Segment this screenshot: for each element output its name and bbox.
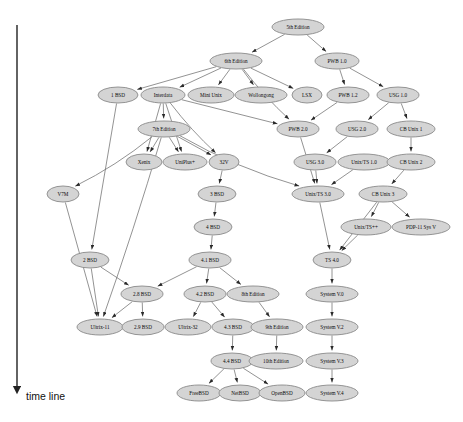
node-sysv0[interactable]: System V.0 [306, 286, 358, 302]
node-label: CB Unix 3 [372, 191, 395, 197]
node-label: 9th Edition [265, 324, 289, 330]
edge-7th-to-uniplus [169, 137, 178, 151]
node-label: TS 4.0 [325, 257, 339, 263]
node-usg10[interactable]: USG 1.0 [377, 87, 419, 103]
node-ts40[interactable]: TS 4.0 [313, 252, 351, 268]
node-cb1[interactable]: CB Unix 1 [387, 121, 435, 137]
edge-42bsd-to-43bsd [212, 302, 225, 317]
edge-usg10-to-usg20 [368, 103, 389, 120]
node-uts10[interactable]: Unix/TS 1.0 [338, 154, 390, 170]
edge-1bsd-to-2bsd [92, 103, 117, 249]
node-label: PDP-11 Sys V [406, 224, 436, 230]
node-sysv2[interactable]: System V.2 [306, 319, 358, 335]
node-pdp11sv[interactable]: PDP-11 Sys V [392, 219, 450, 235]
node-cb3[interactable]: CB Unix 3 [359, 186, 407, 202]
node-label: USG 3.0 [306, 159, 325, 165]
timeline-label: time line [26, 390, 65, 402]
node-43bsd[interactable]: 4.3 BSD [212, 319, 254, 335]
node-usg30[interactable]: USG 3.0 [294, 154, 336, 170]
edge-cb2-to-cb3 [392, 170, 404, 184]
node-label: USG 1.0 [389, 92, 408, 98]
node-utspp[interactable]: Unix/TS++ [341, 219, 391, 235]
node-label: 1 BSD [111, 92, 125, 98]
node-sysv3[interactable]: System V.3 [306, 353, 358, 369]
node-3bsd[interactable]: 3 BSD [198, 186, 236, 202]
node-label: Ultrix-11 [90, 324, 110, 330]
node-label: Wollongong [248, 92, 274, 98]
node-32v[interactable]: 32V [209, 154, 239, 170]
edge-usg20-to-usg30 [327, 137, 348, 153]
node-label: 7th Edition [152, 126, 176, 132]
node-label: Unix/TS++ [354, 224, 378, 230]
node-label: NetBSD [231, 390, 249, 396]
node-uniplus[interactable]: UniPlus+ [163, 154, 207, 170]
edge-4bsd-to-41bsd [211, 235, 212, 249]
node-lsx[interactable]: LSX [292, 87, 322, 103]
edge-usg30-to-uts30 [316, 170, 317, 183]
node-label: 8th Edition [241, 291, 265, 297]
edge-44bsd-to-openbsd [243, 368, 268, 384]
node-uts30[interactable]: Unix/TS 3.0 [292, 186, 344, 202]
node-sysv4[interactable]: System V.4 [306, 385, 358, 401]
node-ultrix11[interactable]: Ultrix-11 [77, 319, 123, 335]
edge-44bsd-to-freebsd [209, 369, 224, 383]
node-label: System V.0 [320, 291, 344, 297]
node-interdata[interactable]: Interdata [141, 87, 185, 103]
node-6th[interactable]: 6th Edition [210, 53, 262, 69]
node-label: Interdata [154, 92, 173, 98]
node-2bsd[interactable]: 2 BSD [71, 252, 109, 268]
node-layer: 5th Edition6th EditionPWB 1.01 BSDInterd… [47, 19, 450, 401]
edge-5th-to-6th [252, 34, 285, 52]
node-4bsd[interactable]: 4 BSD [194, 219, 232, 235]
node-label: CB Unix 1 [400, 126, 423, 132]
node-pwb10[interactable]: PWB 1.0 [315, 53, 359, 69]
node-8th[interactable]: 8th Edition [227, 286, 279, 302]
node-42bsd[interactable]: 4.2 BSD [184, 286, 226, 302]
edge-usg10-to-cb1 [401, 103, 407, 118]
diagram-canvas: 5th Edition6th EditionPWB 1.01 BSDInterd… [0, 0, 463, 422]
node-openbsd[interactable]: OpenBSD [259, 385, 305, 401]
node-label: UniPlus+ [175, 159, 195, 165]
node-cb2[interactable]: CB Unix 2 [387, 154, 435, 170]
node-44bsd[interactable]: 4.4 BSD [211, 353, 253, 369]
node-label: Unix/TS 1.0 [351, 159, 377, 165]
node-v7m[interactable]: V7M [47, 186, 79, 202]
node-pwb20[interactable]: PWB 2.0 [277, 121, 319, 137]
node-label: Unix/TS 3.0 [305, 191, 331, 197]
node-41bsd[interactable]: 4.1 BSD [189, 252, 231, 268]
node-label: Ultrix-32 [178, 324, 198, 330]
node-9th[interactable]: 9th Edition [251, 319, 303, 335]
node-29bsd[interactable]: 2.9 BSD [122, 319, 164, 335]
node-usg20[interactable]: USG 2.0 [336, 121, 378, 137]
node-label: System V.4 [320, 390, 344, 396]
node-wollong[interactable]: Wollongong [235, 87, 287, 103]
edge-pwb12-to-pwb20 [311, 102, 337, 120]
node-label: 2.8 BSD [133, 291, 151, 297]
node-label: 2.9 BSD [134, 324, 152, 330]
node-label: 4.3 BSD [224, 324, 242, 330]
node-label: 4.2 BSD [196, 291, 214, 297]
node-xenix[interactable]: Xenix [126, 154, 162, 170]
edge-6th-to-interdata [180, 68, 221, 87]
edge-2bsd-to-28bsd [101, 267, 129, 285]
edge-pwb10-to-pwb12 [340, 69, 345, 84]
edge-5th-to-pwb10 [307, 35, 326, 52]
node-7th[interactable]: 7th Edition [138, 121, 190, 137]
node-1bsd[interactable]: 1 BSD [98, 87, 138, 103]
edge-28bsd-to-ultrix11 [112, 302, 132, 318]
node-10th[interactable]: 10th Edition [249, 353, 303, 369]
node-netbsd[interactable]: NetBSD [219, 385, 261, 401]
node-label: CB Unix 2 [400, 159, 423, 165]
unix-history-diagram: 5th Edition6th EditionPWB 1.01 BSDInterd… [0, 0, 463, 422]
node-minix[interactable]: Mini Unix [188, 87, 234, 103]
edge-42bsd-to-ultrix32 [193, 302, 200, 316]
edge-6th-to-minix [218, 69, 229, 85]
edge-uts10-to-uts30 [331, 170, 352, 185]
node-28bsd[interactable]: 2.8 BSD [121, 286, 163, 302]
node-pwb12[interactable]: PWB 1.2 [327, 87, 369, 103]
node-freebsd[interactable]: FreeBSD [177, 385, 221, 401]
node-label: Xenix [138, 159, 151, 165]
node-label: 6th Edition [224, 58, 248, 64]
node-5th[interactable]: 5th Edition [272, 19, 324, 35]
node-ultrix32[interactable]: Ultrix-32 [165, 319, 211, 335]
